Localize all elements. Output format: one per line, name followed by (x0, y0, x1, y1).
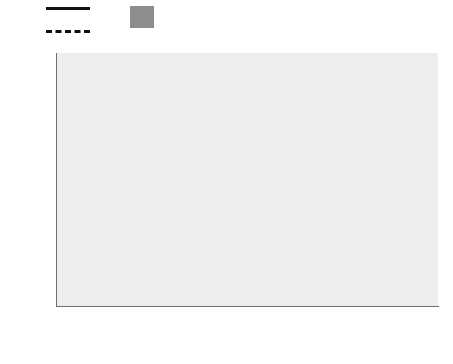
plot-area-background (56, 53, 438, 306)
x-axis-line (56, 306, 439, 307)
legend-item-drug (46, 7, 98, 10)
legend-line-solid-icon (46, 7, 90, 10)
legend-item-shaded (130, 6, 163, 33)
y-axis-line (56, 53, 57, 307)
chart-figure (0, 0, 453, 364)
chart-legend (46, 4, 296, 50)
legend-item-placebo (46, 30, 98, 33)
legend-line-dashed-icon (46, 30, 90, 33)
legend-swatch-icon (130, 6, 154, 28)
figure-caption (14, 352, 314, 363)
